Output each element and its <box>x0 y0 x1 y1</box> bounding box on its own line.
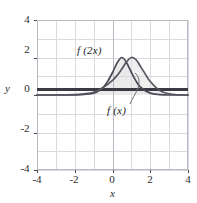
x-tick-minus-2: -2 <box>65 173 83 185</box>
y-tick-4: 4 <box>20 13 34 25</box>
x-tick-0: 0 <box>105 173 119 185</box>
x-axis-label: x <box>110 187 115 199</box>
y-tick-minus-2: -2 <box>16 122 34 134</box>
x-tick-minus-4: -4 <box>28 173 46 185</box>
x-tick-4: 4 <box>181 173 195 185</box>
y-tick-0: 0 <box>20 82 34 94</box>
axis-ticks <box>34 21 189 174</box>
curve-label-f-2x: f (2x) <box>77 44 102 56</box>
x-tick-2: 2 <box>143 173 157 185</box>
y-tick-2: 2 <box>20 43 34 55</box>
curve-label-f-x: f (x) <box>107 104 126 116</box>
y-axis-label: y <box>5 82 10 94</box>
graph-figure: 4 2 0 -2 -4 -4 -2 0 2 4 y x f (2x) f (x) <box>0 0 197 203</box>
